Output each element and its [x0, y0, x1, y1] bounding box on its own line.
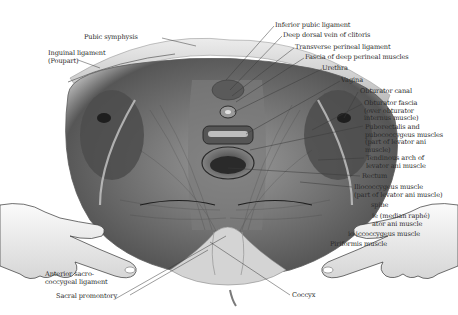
label-line: coccygeal ligament: [45, 279, 135, 287]
label-anterior-sacrococcygeal-ligament: Anterior sacro- coccygeal ligament: [45, 271, 135, 286]
label-line: (Poupart): [48, 58, 128, 66]
label-coccyx: Coccyx: [292, 292, 315, 300]
label-piriformis: Piriformis muscle: [330, 241, 387, 249]
label-line: levator ani muscle: [366, 163, 456, 171]
label-rectum: Rectum: [362, 173, 387, 181]
label-deep-dorsal-vein: Deep dorsal vein of clitoris: [283, 32, 370, 40]
label-iliococcygeus: Iliococcygeus muscle (part of levator an…: [354, 184, 458, 199]
label-urethra: Urethra: [322, 65, 348, 73]
label-sacral-promontory: Sacral promontory: [56, 293, 117, 301]
label-obturator-fascia: Obturator fascia (over obturator internu…: [364, 100, 454, 123]
clitoris-region: [212, 80, 244, 100]
label-line: (part of levator ani muscle): [354, 192, 458, 200]
label-obturator-canal: Obturator canal: [360, 88, 412, 96]
label-vagina: Vagina: [341, 77, 363, 85]
label-line: ator ani muscle: [372, 221, 458, 229]
label-fascia-deep-perineal: Fascia of deep perineal muscles: [305, 54, 409, 62]
label-ischiococcygeus: io iccoccygeus muscle: [348, 231, 420, 239]
label-line: internus muscle): [364, 115, 454, 123]
label-puborectalis: Puborectalis and pubococcygeus muscles (…: [365, 124, 457, 154]
label-inferior-pubic-ligament: Inferior pubic ligament: [275, 22, 350, 30]
label-inguinal-ligament: Inguinal ligament (Poupart): [48, 50, 128, 65]
anatomy-figure: Pubic symphysis Inguinal ligament (Poupa…: [0, 0, 458, 315]
label-transverse-perineal-ligament: Transverse perineal ligament: [295, 44, 391, 52]
label-anococcygeal-body: ie (median raphé) ator ani muscle: [372, 213, 458, 228]
label-tendinous-arch: Tendinous arch of levator ani muscle: [366, 155, 456, 170]
label-ischial-spine: spine: [371, 202, 388, 210]
label-pubic-symphysis: Pubic symphysis: [84, 34, 138, 42]
